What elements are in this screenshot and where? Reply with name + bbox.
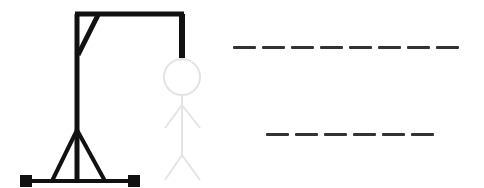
- letter-slot: [411, 133, 434, 136]
- letter-slot: [382, 133, 405, 136]
- gallows: [22, 14, 184, 181]
- base-foot-right: [128, 175, 140, 187]
- letter-slot: [320, 46, 343, 49]
- hanged-figure: [164, 59, 200, 180]
- base-foot-left: [20, 175, 32, 187]
- letter-slot: [436, 46, 459, 49]
- letter-slot: [349, 46, 372, 49]
- figure-right-leg: [182, 155, 200, 180]
- letter-slot: [291, 46, 314, 49]
- letter-slot: [378, 46, 401, 49]
- figure-left-leg: [165, 155, 182, 180]
- letter-slot: [262, 46, 285, 49]
- gallows-leg-right: [77, 130, 105, 181]
- letter-slot: [324, 133, 347, 136]
- letter-slot: [266, 133, 289, 136]
- letter-slot: [295, 133, 318, 136]
- figure-head: [164, 59, 200, 95]
- letter-slot: [233, 46, 256, 49]
- hangman-drawing: [0, 0, 484, 188]
- word-1: [233, 46, 465, 49]
- figure-right-arm: [182, 105, 200, 128]
- letter-slot: [407, 46, 430, 49]
- letter-slot: [353, 133, 376, 136]
- figure-left-arm: [165, 105, 182, 128]
- gallows-leg-left: [52, 130, 77, 181]
- word-2: [266, 133, 440, 136]
- gallows-brace: [78, 15, 98, 55]
